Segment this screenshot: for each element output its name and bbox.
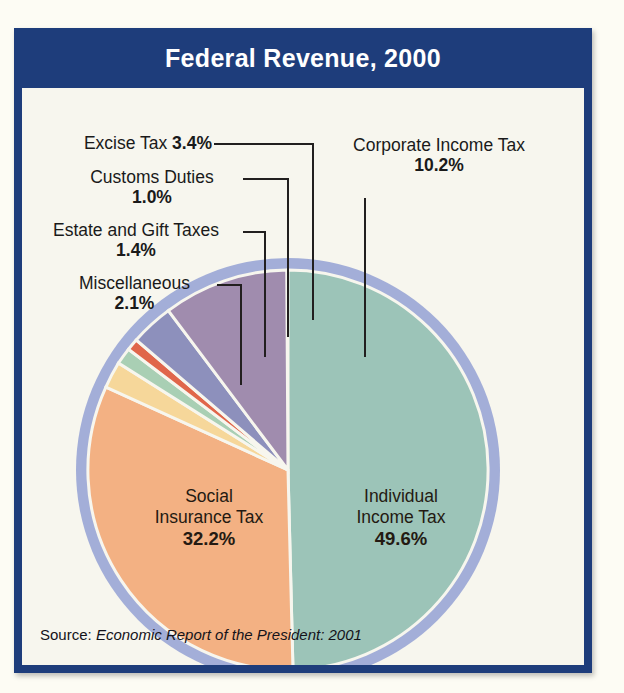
callout-customs-duties-name: Customs Duties: [62, 168, 242, 188]
slice-label-social-insurance-tax: Social Insurance Tax 32.2%: [114, 486, 304, 550]
callout-miscellaneous-value: 2.1%: [52, 294, 217, 314]
source-prefix: Source:: [40, 626, 92, 643]
slice-label-social-insurance-tax-line2: Insurance Tax: [114, 507, 304, 528]
page-title: Federal Revenue, 2000: [165, 44, 441, 73]
callout-corporate-income-tax-value: 10.2%: [322, 156, 556, 176]
callout-miscellaneous: Miscellaneous 2.1%: [52, 274, 217, 314]
slice-label-social-insurance-tax-line1: Social: [114, 486, 304, 507]
figure-frame: Federal Revenue, 2000: [14, 28, 592, 673]
slice-label-individual-income-tax-line2: Income Tax: [306, 507, 496, 528]
source-note: Source: Economic Report of the President…: [40, 626, 362, 643]
callout-estate-and-gift-taxes-value: 1.4%: [30, 241, 242, 261]
figure-title-bar: Federal Revenue, 2000: [14, 28, 592, 88]
slice-label-social-insurance-tax-value: 32.2%: [114, 528, 304, 550]
slice-individual-income-tax[interactable]: [288, 270, 488, 665]
callout-estate-and-gift-taxes: Estate and Gift Taxes 1.4%: [30, 221, 242, 261]
callout-excise-tax-name: Excise Tax: [84, 133, 167, 153]
slice-label-individual-income-tax-line1: Individual: [306, 486, 496, 507]
callout-corporate-income-tax-name: Corporate Income Tax: [322, 136, 556, 156]
callout-miscellaneous-name: Miscellaneous: [52, 274, 217, 294]
callout-customs-duties-value: 1.0%: [62, 188, 242, 208]
source-reference: Economic Report of the President: 2001: [96, 626, 362, 643]
callout-corporate-income-tax: Corporate Income Tax 10.2%: [322, 136, 556, 176]
callout-excise-tax: Excise Tax 3.4%: [62, 134, 212, 154]
figure-root: Federal Revenue, 2000: [0, 0, 624, 693]
callout-estate-and-gift-taxes-name: Estate and Gift Taxes: [30, 221, 242, 241]
callout-excise-tax-value: 3.4%: [172, 133, 212, 153]
callout-customs-duties: Customs Duties 1.0%: [62, 168, 242, 208]
chart-panel: Excise Tax 3.4% Customs Duties 1.0% Esta…: [22, 88, 584, 665]
slice-label-individual-income-tax-value: 49.6%: [306, 528, 496, 550]
slice-label-individual-income-tax: Individual Income Tax 49.6%: [306, 486, 496, 550]
